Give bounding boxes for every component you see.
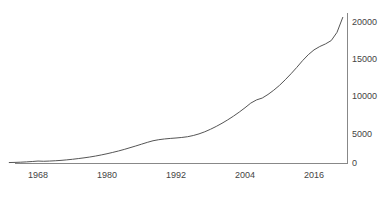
- data-series-line: [9, 17, 343, 162]
- x-tick-label-1992: 1992: [156, 170, 196, 180]
- y-tick-label-20000: 20000: [352, 17, 377, 27]
- y-tick-label-15000: 15000: [352, 54, 377, 64]
- y-tick-label-5000: 5000: [352, 129, 372, 139]
- x-tick-label-1968: 1968: [18, 170, 58, 180]
- x-tick-label-2016: 2016: [294, 170, 334, 180]
- y-tick-label-0: 0: [352, 158, 357, 168]
- chart-figure: 20000 15000 10000 5000 0 1968 1980 1992 …: [0, 0, 391, 200]
- x-tick-label-2004: 2004: [225, 170, 265, 180]
- x-tick-label-1980: 1980: [87, 170, 127, 180]
- y-tick-label-10000: 10000: [352, 91, 377, 101]
